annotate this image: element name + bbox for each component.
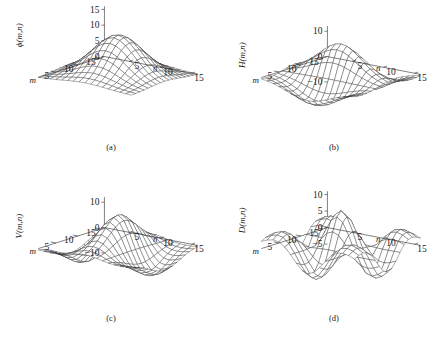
panel-d: 1050−5D(m,n)15105m51015n(d) [223, 171, 445, 342]
z-tick-label: 15 [90, 5, 100, 15]
m-tick-label: 15 [309, 57, 319, 67]
n-tick-label: 5 [135, 61, 140, 71]
n-axis-label: n [153, 234, 158, 244]
z-tick-label: −5 [312, 239, 322, 249]
z-tick-label: 10 [90, 197, 100, 207]
mesh-surface-d [261, 211, 420, 280]
m-axis-label: m [252, 75, 259, 85]
n-axis-label: n [153, 63, 158, 73]
m-tick-label: 10 [64, 235, 74, 245]
m-axis-label: m [252, 246, 259, 256]
mesh-surface-c [38, 215, 197, 276]
n-tick-label: 10 [386, 238, 396, 248]
m-tick-label: 5 [267, 71, 272, 81]
z-tick-label: 10 [313, 26, 323, 36]
n-tick-label: 15 [417, 73, 427, 83]
panel-c: 100−10V(m,n)15105m51015n(c) [0, 171, 222, 342]
n-tick-label: 15 [194, 73, 204, 83]
z-tick-label: −10 [85, 248, 100, 258]
n-tick-label: 5 [358, 61, 363, 71]
z-tick-label: −10 [308, 77, 323, 87]
z-tick-label: 5 [318, 206, 323, 216]
z-tick-label: 10 [90, 20, 100, 30]
z-axis-label: ϕ(m,n) [14, 23, 24, 47]
m-tick-label: 10 [64, 64, 74, 74]
m-tick-label: 5 [44, 71, 49, 81]
mesh-surface-a [38, 35, 197, 95]
panel-b: 100−10H(m,n)15105m51015n(b) [223, 0, 445, 171]
wavelet-basis-figure: 151050ϕ(m,n)15105m51015n(a)100−10H(m,n)1… [0, 0, 445, 342]
m-axis-label: m [29, 246, 36, 256]
n-tick-label: 5 [135, 232, 140, 242]
m-tick-label: 15 [309, 228, 319, 238]
z-axis-label: H(m,n) [237, 42, 247, 69]
m-tick-label: 15 [86, 57, 96, 67]
z-tick-label: 5 [95, 36, 100, 46]
m-tick-label: 10 [287, 64, 297, 74]
z-axis-label: V(m,n) [14, 214, 24, 239]
n-tick-label: 15 [417, 244, 427, 254]
m-axis-label: m [29, 75, 36, 85]
panel-caption-d: (d) [223, 313, 445, 323]
n-axis-label: n [376, 234, 381, 244]
n-tick-label: 5 [358, 232, 363, 242]
m-tick-label: 5 [267, 242, 272, 252]
n-tick-label: 10 [163, 238, 173, 248]
z-tick-label: 10 [313, 190, 323, 200]
m-tick-label: 15 [86, 228, 96, 238]
n-tick-label: 15 [194, 244, 204, 254]
n-tick-label: 10 [386, 67, 396, 77]
m-tick-label: 10 [287, 235, 297, 245]
panel-a: 151050ϕ(m,n)15105m51015n(a) [0, 0, 222, 171]
m-tick-label: 5 [44, 242, 49, 252]
mesh-surface-b [261, 44, 420, 106]
n-tick-label: 10 [163, 67, 173, 77]
panel-caption-a: (a) [0, 142, 222, 152]
panel-caption-b: (b) [223, 142, 445, 152]
n-axis-label: n [376, 63, 381, 73]
panel-caption-c: (c) [0, 313, 222, 323]
z-axis-label: D(m,n) [237, 207, 247, 234]
